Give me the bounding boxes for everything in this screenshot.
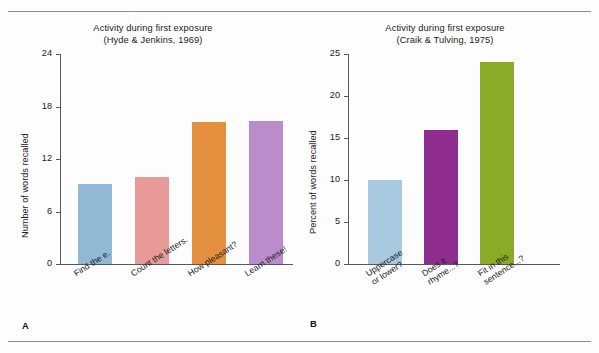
y-axis-line — [60, 54, 61, 265]
y-axis-tick-label: 20 — [310, 90, 340, 100]
panel-a: Activity during first exposure (Hyde & J… — [8, 18, 298, 338]
bar — [480, 62, 514, 264]
y-axis-tick — [56, 212, 60, 213]
bottom-divider-rule — [8, 341, 591, 342]
y-axis-tick — [344, 180, 348, 181]
y-axis-tick — [56, 264, 60, 265]
y-axis-tick-label: 0 — [310, 258, 340, 268]
bar — [424, 130, 458, 264]
y-axis-tick — [56, 159, 60, 160]
y-axis-tick — [344, 138, 348, 139]
y-axis-tick-label: 24 — [22, 48, 52, 58]
y-axis-tick — [56, 107, 60, 108]
panel-b-plot-area: 0510152025Percent of words recalledUpper… — [300, 48, 590, 338]
y-axis-label: Number of words recalled — [20, 133, 30, 238]
y-axis-label: Percent of words recalled — [308, 130, 318, 234]
y-axis-tick — [56, 54, 60, 55]
bar — [249, 121, 283, 265]
y-axis-tick — [344, 222, 348, 223]
panel-a-plot-area: 06121824Number of words recalledFind the… — [8, 48, 298, 338]
panel-a-letter: A — [22, 320, 29, 331]
y-axis-tick-label: 0 — [22, 258, 52, 268]
panel-a-title-line2: (Hyde & Jenkins, 1969) — [8, 34, 298, 46]
panel-b-title-line1: Activity during first exposure — [385, 23, 504, 33]
y-axis-tick-label: 18 — [22, 101, 52, 111]
panel-b: Activity during first exposure (Craik & … — [300, 18, 590, 338]
panel-b-title: Activity during first exposure (Craik & … — [300, 22, 590, 47]
y-axis-tick — [344, 264, 348, 265]
y-axis-tick-label: 25 — [310, 48, 340, 58]
panel-b-letter: B — [310, 318, 317, 329]
figure-canvas: Activity during first exposure (Hyde & J… — [0, 0, 599, 353]
panel-a-title: Activity during first exposure (Hyde & J… — [8, 22, 298, 47]
bar — [192, 122, 226, 264]
panel-a-title-line1: Activity during first exposure — [93, 23, 212, 33]
y-axis-line — [348, 54, 349, 265]
top-divider-rule — [8, 11, 591, 12]
panel-b-title-line2: (Craik & Tulving, 1975) — [300, 34, 590, 46]
y-axis-tick — [344, 54, 348, 55]
y-axis-tick — [344, 96, 348, 97]
